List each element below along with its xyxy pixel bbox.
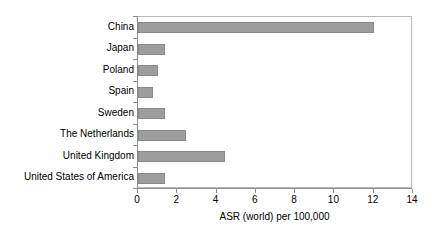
bar-row [138,125,411,147]
plot-area [137,16,412,188]
y-axis-labels: ChinaJapanPolandSpainSwedenThe Netherlan… [0,16,134,188]
x-axis-tick [412,189,413,193]
y-axis-tick-label: United Kingdom [2,150,134,161]
x-axis-tick [216,189,217,193]
bar-row [138,168,411,190]
x-axis-tick-label: 6 [240,194,270,206]
y-axis-tick-label: Spain [2,85,134,96]
x-axis-tick-label: 0 [122,194,152,206]
x-axis-tick-label: 10 [318,194,348,206]
bar[interactable] [138,130,186,141]
bar-row [138,82,411,104]
bar[interactable] [138,65,158,76]
x-axis-tick [137,189,138,193]
bar-row [138,60,411,82]
y-axis-tick-label: Poland [2,64,134,75]
x-axis-line [137,188,412,189]
x-axis-tick [255,189,256,193]
x-axis-tick-label: 12 [358,194,388,206]
bar-row [138,39,411,61]
x-axis-title: ASR (world) per 100,000 [137,211,412,223]
bar-row [138,146,411,168]
bar[interactable] [138,44,165,55]
x-axis-tick [176,189,177,193]
bar-row [138,103,411,125]
x-axis-tick [333,189,334,193]
bar[interactable] [138,151,225,162]
bar[interactable] [138,108,165,119]
y-axis-tick-label: The Netherlands [2,128,134,139]
bar[interactable] [138,173,165,184]
y-axis-tick-label: Sweden [2,107,134,118]
y-axis-line [137,16,138,188]
x-axis-tick [373,189,374,193]
x-axis-tick-label: 2 [161,194,191,206]
x-axis-tick-label: 8 [279,194,309,206]
x-axis-tick-label: 4 [201,194,231,206]
y-axis-tick-label: United States of America [2,171,134,182]
y-axis-tick-label: China [2,21,134,32]
bar-chart: ChinaJapanPolandSpainSwedenThe Netherlan… [0,0,437,239]
bar[interactable] [138,87,153,98]
bar-row [138,17,411,39]
x-axis-tick-label: 14 [397,194,427,206]
bar[interactable] [138,22,374,33]
y-axis-tick-label: Japan [2,42,134,53]
x-axis-tick [294,189,295,193]
